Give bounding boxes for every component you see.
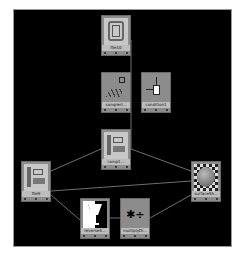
node-multiply-divide[interactable]: ✱÷ multiplyDi... [120,198,150,239]
multiply-divide-icon: ✱÷ [123,201,147,228]
file-texture-icon [24,164,48,191]
condition-icon [144,75,168,102]
ramp-texture-icon [104,132,128,159]
sampler-info-icon [104,75,128,102]
checker-sphere-icon [194,164,218,191]
file-texture-icon [104,18,128,45]
node-sampler-info[interactable]: samplerI... [101,72,131,113]
node-file9[interactable]: file9 [21,161,51,202]
reverse-icon [83,201,107,228]
node-file10[interactable]: file10 [101,15,131,56]
node-condition[interactable]: condition1 [141,72,171,113]
node-ramp[interactable]: ramp1... [101,129,131,170]
node-reverse[interactable]: reverse4... [80,198,110,239]
node-surface-shader[interactable]: surfaceSh... [191,161,221,202]
